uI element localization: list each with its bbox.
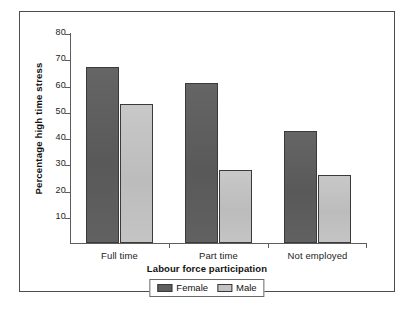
x-axis-tick-mark bbox=[268, 244, 269, 248]
x-axis-category-label: Part time bbox=[199, 250, 238, 261]
bar-female-not-employed bbox=[284, 131, 317, 243]
y-axis-tick-label: 20 bbox=[56, 185, 66, 195]
legend-label-female: Female bbox=[176, 282, 208, 293]
x-axis-tick-mark bbox=[169, 244, 170, 248]
figure-frame: Percentage high time stress 102030405060… bbox=[19, 11, 395, 292]
bar-female-full-time bbox=[86, 67, 119, 243]
x-axis-tick-mark bbox=[366, 244, 367, 248]
bar-male-part-time bbox=[219, 170, 252, 244]
plot-area: 1020304050607080 bbox=[70, 33, 367, 244]
y-axis-title-text: Percentage high time stress bbox=[33, 62, 44, 194]
legend-item-female[interactable]: Female bbox=[157, 282, 208, 293]
y-axis-tick-label: 30 bbox=[56, 158, 66, 168]
bar-male-not-employed bbox=[318, 175, 351, 243]
y-axis-tick-label: 70 bbox=[56, 53, 66, 63]
y-axis-tick-label: 60 bbox=[56, 80, 66, 90]
legend-swatch-male bbox=[217, 284, 232, 292]
y-axis-tick-label: 80 bbox=[56, 27, 66, 37]
x-axis-line bbox=[70, 243, 367, 244]
chart-legend: FemaleMale bbox=[149, 279, 264, 297]
bar-female-part-time bbox=[185, 83, 218, 243]
x-axis-category-label: Not employed bbox=[288, 250, 348, 261]
y-axis-tick-label: 40 bbox=[56, 132, 66, 142]
y-axis-tick-label: 10 bbox=[56, 211, 66, 221]
y-axis-line bbox=[70, 33, 71, 244]
y-axis-tick-label: 50 bbox=[56, 106, 66, 116]
bar-male-full-time bbox=[120, 104, 153, 243]
legend-item-male[interactable]: Male bbox=[217, 282, 257, 293]
legend-swatch-female bbox=[157, 284, 172, 292]
x-axis-title: Labour force participation bbox=[20, 263, 394, 274]
legend-label-male: Male bbox=[236, 282, 257, 293]
x-axis-category-label: Full time bbox=[101, 250, 138, 261]
y-axis-title: Percentage high time stress bbox=[30, 12, 46, 244]
